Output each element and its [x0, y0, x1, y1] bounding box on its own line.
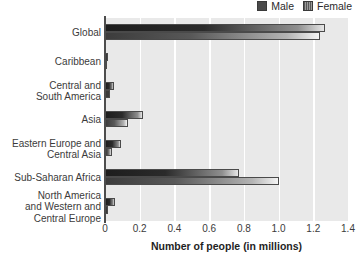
y-axis-label-line: North America: [38, 189, 101, 200]
y-axis-line: [104, 16, 106, 223]
x-axis-tick: 1.0: [272, 223, 286, 234]
bar-male[interactable]: [105, 140, 121, 148]
y-axis-category-label: Eastern Europe andCentral Asia: [0, 137, 101, 160]
y-axis-label-line: Central Asia: [47, 149, 101, 160]
chart-legend: Male Female: [257, 1, 352, 12]
bar-female[interactable]: [105, 148, 112, 156]
x-axis-title: Number of people (in millions): [105, 240, 348, 252]
bar-chart: Male Female GlobalCaribbeanCentral andSo…: [0, 0, 358, 262]
bar-group: [105, 111, 348, 129]
y-axis-label-line: Eastern Europe and: [12, 137, 101, 148]
bar-male[interactable]: [105, 24, 325, 32]
y-axis-category-labels: GlobalCaribbeanCentral andSouth AmericaA…: [0, 18, 101, 221]
legend-label-male: Male: [271, 1, 294, 12]
bar-male[interactable]: [105, 82, 114, 90]
y-axis-label-line: and Western and: [25, 201, 101, 212]
bar-group: [105, 198, 348, 216]
bar-female[interactable]: [105, 177, 279, 185]
y-axis-label-line: South America: [36, 91, 101, 102]
gridline: [348, 18, 349, 221]
bar-female[interactable]: [105, 32, 320, 40]
x-axis-tick: 0: [102, 223, 108, 234]
y-axis-category-label: Asia: [0, 114, 101, 126]
bar-group: [105, 82, 348, 100]
legend-item-male[interactable]: Male: [257, 1, 294, 12]
bar-male[interactable]: [105, 169, 239, 177]
x-axis-tick-labels: 00.20.40.60.81.01.21.4: [105, 223, 348, 237]
y-axis-category-label: North Americaand Western andCentral Euro…: [0, 189, 101, 224]
male-swatch-icon: [257, 1, 267, 11]
y-axis-category-label: Global: [0, 27, 101, 39]
legend-label-female: Female: [317, 1, 352, 12]
bar-male[interactable]: [105, 111, 143, 119]
y-axis-label-line: Central Europe: [34, 212, 101, 223]
y-axis-label-line: Sub-Saharan Africa: [14, 172, 101, 183]
x-axis-tick: 0.8: [237, 223, 251, 234]
x-axis-tick: 0.6: [202, 223, 216, 234]
y-axis-category-label: Caribbean: [0, 56, 101, 68]
y-axis-category-label: Sub-Saharan Africa: [0, 172, 101, 184]
bars-layer: [105, 18, 348, 221]
bar-group: [105, 53, 348, 71]
legend-item-female[interactable]: Female: [303, 1, 352, 12]
x-axis-tick: 0.2: [133, 223, 147, 234]
y-axis-category-label: Central andSouth America: [0, 79, 101, 102]
x-axis-tick: 1.2: [306, 223, 320, 234]
female-swatch-icon: [303, 1, 313, 11]
y-axis-label-line: Global: [72, 27, 101, 38]
y-axis-label-line: Caribbean: [55, 56, 101, 67]
bar-female[interactable]: [105, 90, 110, 98]
y-axis-label-line: Asia: [82, 114, 101, 125]
bar-male[interactable]: [105, 198, 115, 206]
bar-group: [105, 169, 348, 187]
y-axis-label-line: Central and: [49, 79, 101, 90]
bar-female[interactable]: [105, 119, 128, 127]
bar-group: [105, 140, 348, 158]
bar-group: [105, 24, 348, 42]
plot-area: [105, 18, 348, 221]
x-axis-tick: 0.4: [167, 223, 181, 234]
x-axis-tick: 1.4: [341, 223, 355, 234]
